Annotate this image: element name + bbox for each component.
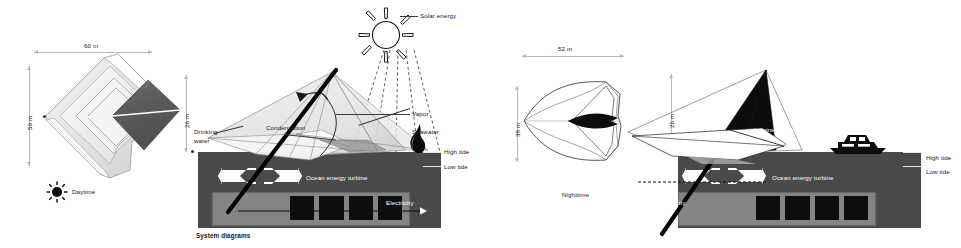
vapor-leader: [336, 114, 410, 115]
turbine-cell: [785, 196, 809, 220]
label-drinking-water-line2: water: [194, 137, 210, 146]
boat-icon: [828, 130, 890, 156]
moon-icon: [786, 18, 828, 60]
turbine-cell: [844, 196, 868, 220]
turbine-cell: [815, 196, 839, 220]
label-drinking-water-line1: Drinking: [194, 128, 218, 137]
label-seawater: Seawater: [412, 128, 439, 137]
day-plan-height-dim-label: 59 m: [26, 116, 35, 130]
label-night-low-tide: Low tide: [926, 168, 950, 177]
night-plan-geometry: [522, 78, 628, 164]
day-low-tide-marker: [423, 166, 441, 167]
day-mast: [220, 66, 370, 216]
night-low-tide-marker: [903, 166, 921, 167]
night-plan-width-dim-label: 52 m: [558, 45, 572, 54]
day-plan-width-dim-label: 60 m: [84, 42, 98, 51]
solar-energy-leader: [400, 16, 418, 17]
label-electricity: Electricity: [386, 199, 414, 208]
label-luminescence: Luminescence: [754, 126, 795, 135]
daytime-plan-panel: 60 m 59 m: [0, 0, 180, 248]
day-section-height-dim-label: 26 m: [183, 114, 192, 128]
night-plan-width-dim-line: [522, 56, 624, 57]
label-vapor: Vapor: [412, 110, 429, 119]
label-night-electricity: Electricity: [658, 199, 686, 208]
label-low-tide: Low tide: [444, 163, 468, 172]
label-solar-energy: Solar energy: [420, 12, 456, 21]
label-night-ocean-energy-turbine: Ocean energy turbine: [772, 174, 834, 183]
nighttime-legend-label: Nighttime: [562, 191, 589, 200]
label-condensation: Condensation: [266, 124, 305, 133]
night-sail-geometry: [626, 66, 846, 164]
system-diagrams-board: 60 m 59 m: [0, 0, 961, 248]
board-caption: System diagrams: [196, 231, 250, 240]
moon-icon: [538, 184, 556, 202]
daytime-legend-label: Daytime: [72, 188, 95, 197]
nighttime-section-panel: 26 m: [660, 0, 961, 248]
sun-icon: [46, 181, 68, 203]
label-high-tide: High tide: [444, 148, 469, 157]
day-plan-geometry: [44, 52, 180, 184]
day-section-base-tick: [191, 150, 194, 153]
daytime-section-panel: 26 m: [180, 0, 480, 248]
night-high-tide-marker: [903, 152, 921, 153]
label-night-high-tide: High tide: [926, 154, 951, 163]
label-ocean-energy-turbine: Ocean energy turbine: [306, 174, 368, 183]
